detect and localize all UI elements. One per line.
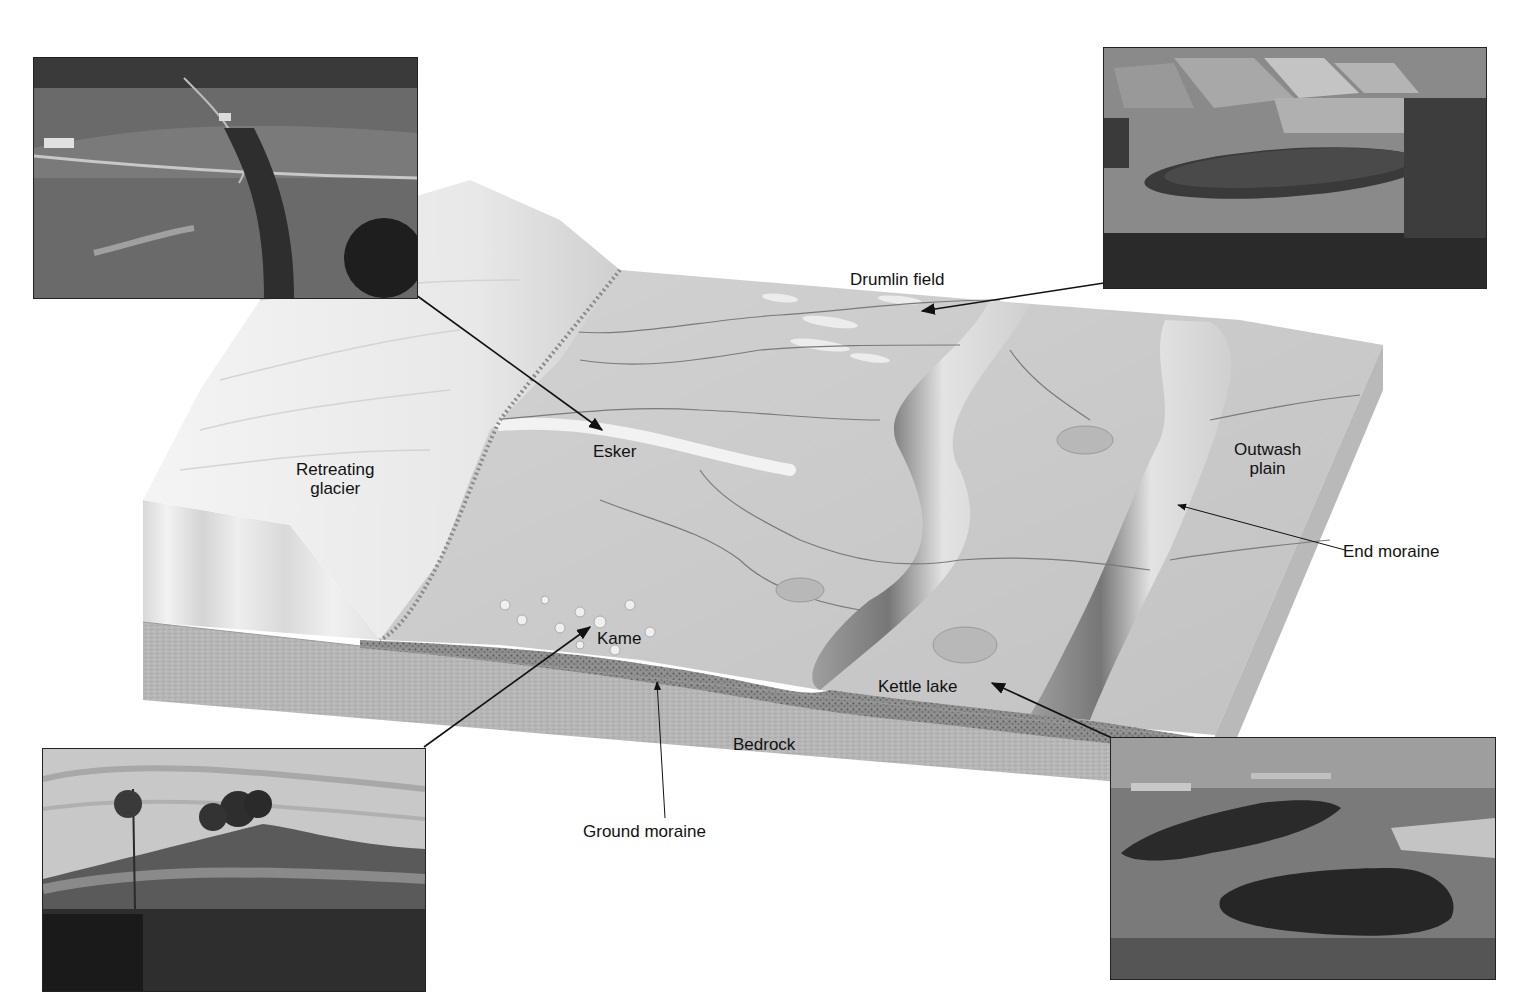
label-drumlin-field: Drumlin field (850, 270, 944, 289)
esker-photo (33, 57, 418, 299)
label-ground-moraine: Ground moraine (583, 822, 706, 841)
label-kettle-lake: Kettle lake (878, 677, 957, 696)
label-outwash-plain-line1: Outwash (1234, 440, 1301, 459)
label-retreating-glacier-line2: glacier (296, 479, 374, 498)
kame-photo (42, 748, 426, 992)
label-outwash-plain: Outwash plain (1234, 440, 1301, 478)
kettle-lake-photo (1110, 737, 1496, 980)
label-esker: Esker (593, 442, 636, 461)
drumlin-photo (1103, 47, 1487, 289)
label-end-moraine: End moraine (1343, 542, 1439, 561)
label-retreating-glacier-line1: Retreating (296, 460, 374, 479)
label-kame: Kame (597, 629, 641, 648)
glacial-landforms-diagram: Drumlin field Retreating glacier Esker O… (0, 0, 1532, 1000)
label-outwash-plain-line2: plain (1234, 459, 1301, 478)
label-retreating-glacier: Retreating glacier (296, 460, 374, 498)
label-bedrock: Bedrock (733, 735, 795, 754)
